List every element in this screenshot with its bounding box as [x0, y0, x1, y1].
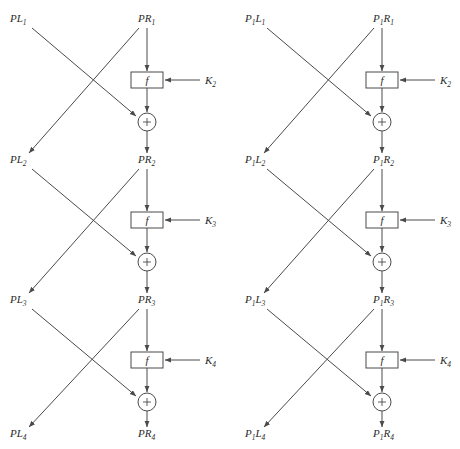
right-label-3: P1R4 [372, 427, 394, 442]
right-label-3: PR4 [137, 427, 155, 442]
left-label-3: P1L4 [244, 427, 266, 442]
wire-l-to-xor-1 [32, 169, 136, 256]
key-label-0: K2 [439, 74, 451, 89]
left-label-3: PL4 [9, 427, 27, 442]
feistel-diagram-left: fK2fK3fK4PL1PR1PL2PR2PL3PR3PL4PR4 [9, 12, 216, 442]
wire-r-to-l-0 [29, 28, 139, 153]
wire-r-to-l-1 [29, 169, 139, 293]
left-label-2: PL3 [9, 293, 27, 308]
left-label-2: P1L3 [244, 293, 266, 308]
right-label-1: PR2 [137, 153, 155, 168]
left-label-0: PL1 [9, 12, 27, 27]
right-label-1: P1R2 [372, 153, 394, 168]
wire-r-to-l-1 [264, 169, 374, 293]
key-label-2: K4 [439, 354, 451, 369]
left-label-1: PL2 [9, 153, 27, 168]
feistel-network-figure: fK2fK3fK4PL1PR1PL2PR2PL3PR3PL4PR4fK2fK3f… [0, 0, 460, 449]
feistel-diagram-right: fK2fK3fK4P1L1P1R1P1L2P1R2P1L3P1R3P1L4P1R… [244, 12, 451, 442]
feistel-diagram-svg: fK2fK3fK4PL1PR1PL2PR2PL3PR3PL4PR4fK2fK3f… [0, 0, 460, 449]
wire-l-to-xor-1 [267, 169, 371, 256]
right-label-2: P1R3 [372, 293, 394, 308]
wire-l-to-xor-0 [32, 28, 136, 116]
wire-r-to-l-0 [264, 28, 374, 153]
right-label-0: P1R1 [372, 12, 394, 27]
right-label-2: PR3 [137, 293, 155, 308]
key-label-2: K4 [204, 354, 216, 369]
right-label-0: PR1 [137, 12, 155, 27]
wire-l-to-xor-2 [267, 309, 371, 396]
left-label-1: P1L2 [244, 153, 266, 168]
wire-l-to-xor-0 [267, 28, 371, 116]
wire-r-to-l-2 [29, 309, 139, 427]
key-label-1: K3 [439, 214, 451, 229]
wire-l-to-xor-2 [32, 309, 136, 396]
key-label-0: K2 [204, 74, 216, 89]
left-label-0: P1L1 [244, 12, 265, 27]
key-label-1: K3 [204, 214, 216, 229]
wire-r-to-l-2 [264, 309, 374, 427]
